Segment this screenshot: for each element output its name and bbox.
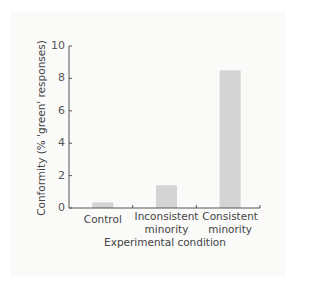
bar-0 <box>92 202 113 208</box>
y-tick-label: 4 <box>49 136 65 149</box>
bar-2 <box>220 70 241 208</box>
bar-1 <box>156 185 177 208</box>
y-tick-label: 8 <box>49 71 65 84</box>
y-tick-label: 2 <box>49 169 65 182</box>
y-tick-label: 10 <box>49 39 65 52</box>
x-axis-label: Experimental condition <box>69 236 261 248</box>
x-category-label: Consistentminority <box>190 210 270 235</box>
y-axis-label: Conformity (% 'green' responses) <box>35 40 47 216</box>
y-tick-label: 6 <box>49 104 65 117</box>
